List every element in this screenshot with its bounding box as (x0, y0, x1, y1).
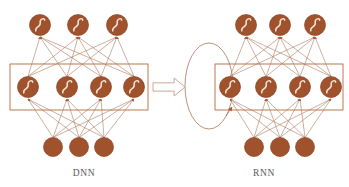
neuron-circle (44, 138, 63, 157)
dnn-hidden-node-1 (18, 77, 39, 98)
rnn-hidden-node-4 (321, 77, 342, 98)
edge (28, 99, 53, 138)
edge (28, 37, 40, 77)
rnn-input-node-1 (245, 138, 264, 157)
dnn-edges (28, 37, 134, 138)
edge (67, 37, 78, 77)
network-labels-layer: DNNRNN (73, 168, 275, 178)
dnn-hidden-node-4 (124, 77, 145, 98)
rnn-hidden-node-3 (290, 77, 311, 98)
edge (254, 99, 331, 138)
edge (40, 37, 134, 77)
rnn-edges (230, 37, 331, 138)
dnn-label: DNN (73, 168, 95, 178)
edge (266, 99, 305, 138)
edge (230, 99, 254, 138)
edge (79, 99, 134, 138)
dnn-input-layer (44, 138, 114, 157)
dnn-hidden-node-2 (57, 77, 78, 98)
edge (101, 99, 104, 138)
edge (28, 99, 104, 138)
neuron-circle (95, 138, 114, 157)
rnn-output-node-1 (236, 15, 257, 36)
transition-arrow (153, 78, 185, 96)
dnn-output-node-2 (68, 15, 89, 36)
edge (230, 99, 305, 138)
diagram-canvas: DNNRNN (0, 0, 349, 187)
edge (67, 99, 104, 138)
transition-arrow-layer (153, 78, 185, 96)
edge (230, 99, 280, 138)
rnn-output-node-2 (270, 15, 291, 36)
edge (280, 99, 300, 138)
rnn-input-layer (245, 138, 315, 157)
rnn-hidden-node-2 (256, 77, 277, 98)
neuron-circle (245, 138, 264, 157)
rnn-hidden-node-1 (220, 77, 241, 98)
dnn-input-node-2 (70, 138, 89, 157)
dnn-output-node-3 (107, 15, 128, 36)
neural-network-comparison-figure: DNNRNN (0, 0, 349, 187)
edge (300, 99, 305, 138)
edge (78, 37, 101, 77)
dnn-input-node-3 (95, 138, 114, 157)
edge (246, 37, 331, 77)
edge (246, 37, 266, 77)
neuron-circle (296, 138, 315, 157)
edge (280, 37, 300, 77)
edge (254, 99, 266, 138)
rnn-label: RNN (253, 168, 275, 178)
rnn-input-node-2 (271, 138, 290, 157)
edge (79, 99, 101, 138)
dnn-output-layer (30, 15, 128, 36)
rnn-hidden-layer (220, 77, 342, 98)
neuron-circle (70, 138, 89, 157)
edge (305, 99, 331, 138)
edge (28, 99, 79, 138)
rnn-output-node-3 (305, 15, 326, 36)
dnn-output-node-1 (30, 15, 51, 36)
rnn-input-node-3 (296, 138, 315, 157)
edge (104, 99, 134, 138)
neuron-circle (271, 138, 290, 157)
recurrent-loop-arrowhead (226, 107, 232, 116)
dnn-hidden-layer (18, 77, 145, 98)
dnn-hidden-node-3 (91, 77, 112, 98)
edge (280, 37, 331, 77)
dnn-input-node-1 (44, 138, 63, 157)
edge (280, 99, 331, 138)
rnn-output-layer (236, 15, 326, 36)
